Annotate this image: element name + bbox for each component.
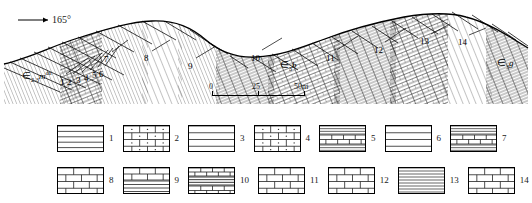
legend-item-2[interactable]: 2: [123, 125, 189, 152]
bed-label-12: 12: [374, 46, 383, 55]
left-unit: ∈2-3mdn: [22, 70, 52, 83]
bed-label-13: 13: [420, 37, 429, 46]
legend-number-12: 12: [380, 176, 389, 185]
legend-swatch-dolomite-brick-dots: [123, 125, 170, 152]
legend-swatch-limestone-brick: [328, 167, 375, 194]
bed-label-8: 8: [144, 54, 149, 63]
legend-number-5: 5: [371, 134, 376, 143]
legend-number-13: 13: [450, 176, 459, 185]
legend-item-3[interactable]: 3: [188, 125, 254, 152]
legend-number-10: 10: [240, 176, 249, 185]
bed-label-3: 3: [76, 76, 81, 85]
legend-swatch-limestone-brick: [57, 167, 104, 194]
legend-number-1: 1: [109, 134, 114, 143]
legend-item-12[interactable]: 12: [328, 167, 398, 194]
legend-swatch-horizontal-lines-wide: [385, 125, 432, 152]
bed-label-7: 7: [104, 55, 109, 64]
bed-label-1: 1: [60, 78, 65, 87]
legend-swatch-horizontal-lines: [57, 125, 104, 152]
scale-label-50: 50m: [294, 82, 308, 91]
legend-item-4[interactable]: 4: [254, 125, 320, 152]
legend-number-3: 3: [240, 134, 245, 143]
legend-swatch-banded-lines-brick: [319, 125, 366, 152]
bed-label-10: 10: [251, 54, 260, 63]
bed-label-14: 14: [458, 38, 467, 47]
legend-item-14[interactable]: 14: [468, 167, 532, 194]
legend-swatch-limestone-brick: [258, 167, 305, 194]
legend-item-10[interactable]: 10: [188, 167, 258, 194]
legend-number-9: 9: [175, 176, 180, 185]
scale-label-25: 25: [252, 82, 260, 91]
legend-item-8[interactable]: 8: [57, 167, 123, 194]
legend-number-8: 8: [109, 176, 114, 185]
legend-row-1: 1234567: [0, 118, 532, 158]
legend-number-7: 7: [502, 134, 507, 143]
legend-item-5[interactable]: 5: [319, 125, 385, 152]
legend-item-13[interactable]: 13: [398, 167, 468, 194]
scale-tick-0: [212, 91, 213, 96]
legend-item-7[interactable]: 7: [450, 125, 516, 152]
legend-number-11: 11: [310, 176, 319, 185]
right-unit: ∈3g: [497, 58, 514, 70]
azimuth-value: 165°: [52, 14, 71, 25]
legend-number-2: 2: [175, 134, 180, 143]
scale-tick-50: [304, 91, 305, 96]
legend: 1234567 891011121314: [0, 112, 532, 203]
legend-number-6: 6: [437, 134, 442, 143]
bed-label-5: 5: [92, 71, 97, 80]
legend-item-1[interactable]: 1: [57, 125, 123, 152]
middle-unit: ∈3b: [280, 60, 297, 72]
scale-label-0: 0: [209, 82, 213, 91]
legend-row-2: 891011121314: [0, 160, 532, 200]
legend-swatch-dense-horizontal-lines: [398, 167, 445, 194]
bed-label-4: 4: [84, 74, 89, 83]
legend-swatch-banded-lines-brick: [450, 125, 497, 152]
figure-root: 165° 1234567891011121314 ∈2-3mdn∈3b∈3g 0…: [0, 0, 532, 203]
scale-bar: 0 25 50m: [208, 84, 308, 102]
legend-number-4: 4: [306, 134, 311, 143]
legend-swatch-horizontal-lines-wide: [188, 125, 235, 152]
scale-tick-25: [258, 91, 259, 96]
legend-swatch-brick-over-lines: [123, 167, 170, 194]
bed-label-9: 9: [188, 62, 193, 71]
legend-swatch-dolomite-brick-dots: [254, 125, 301, 152]
legend-item-6[interactable]: 6: [385, 125, 451, 152]
bed-label-11: 11: [326, 54, 335, 63]
legend-number-14: 14: [520, 176, 529, 185]
bed-label-6: 6: [99, 70, 104, 79]
legend-swatch-banded-brick-lines: [188, 167, 235, 194]
azimuth-label: 165°: [16, 14, 71, 25]
legend-item-11[interactable]: 11: [258, 167, 328, 194]
legend-item-9[interactable]: 9: [123, 167, 189, 194]
legend-swatch-limestone-brick: [468, 167, 515, 194]
bed-label-2: 2: [67, 78, 72, 87]
